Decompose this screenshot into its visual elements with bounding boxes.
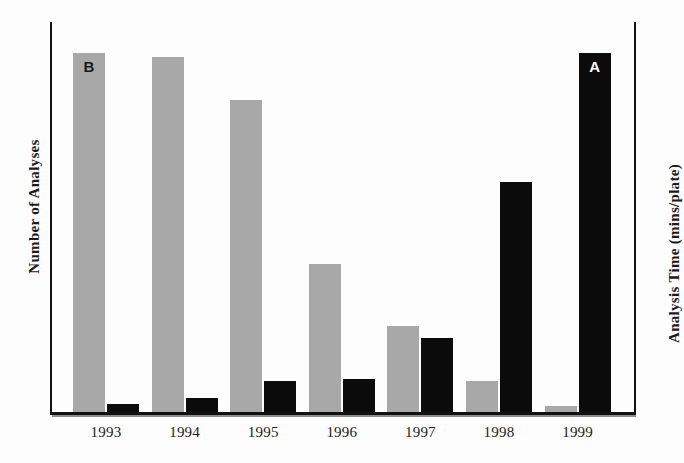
y-axis-left-title: Number of Analyses: [26, 107, 43, 307]
bar-a-1999: A: [579, 53, 611, 412]
bar-b-1995: [230, 100, 262, 412]
x-tick-label-1998: 1998: [458, 424, 540, 441]
chart-figure: Number of Analyses Analysis Time (mins/p…: [0, 0, 684, 463]
x-tick-label-1999: 1999: [537, 424, 619, 441]
bar-a-1994: [186, 398, 218, 412]
bar-b-1999: [545, 406, 577, 412]
bar-b-1996: [309, 264, 341, 412]
bar-b-1994: [152, 57, 184, 412]
x-tick-label-1995: 1995: [222, 424, 304, 441]
series-marker-b: B: [73, 59, 105, 74]
bar-a-1995: [264, 381, 296, 412]
x-tick-label-1997: 1997: [379, 424, 461, 441]
bar-group-container: BA: [50, 22, 636, 412]
bar-b-1993: B: [73, 53, 105, 412]
x-tick-label-1993: 1993: [65, 424, 147, 441]
bar-b-1997: [387, 326, 419, 412]
x-tick-label-1994: 1994: [144, 424, 226, 441]
y-axis-right-title: Analysis Time (mins/plate): [666, 104, 683, 404]
bar-a-1993: [107, 404, 139, 412]
plot-area: BA: [50, 22, 636, 414]
bar-b-1998: [466, 381, 498, 412]
x-tick-label-1996: 1996: [301, 424, 383, 441]
bar-a-1996: [343, 379, 375, 412]
x-axis-shadow: [52, 415, 636, 417]
series-marker-a: A: [579, 59, 611, 74]
bar-a-1998: [500, 182, 532, 412]
x-axis-tick-labels: 1993199419951996199719981999: [50, 424, 636, 448]
bar-a-1997: [421, 338, 453, 412]
